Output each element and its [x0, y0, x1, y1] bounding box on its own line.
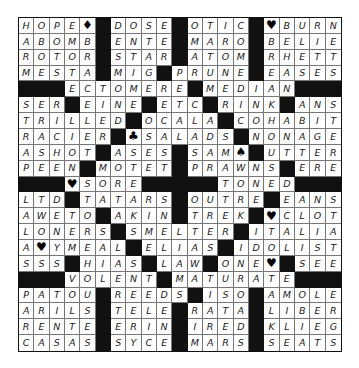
letter-cell[interactable]: E	[142, 288, 157, 304]
letter-cell[interactable]: M	[172, 272, 187, 288]
letter-cell[interactable]: A	[172, 256, 187, 272]
letter-cell[interactable]: S	[50, 66, 65, 82]
letter-cell[interactable]: A	[96, 192, 111, 208]
letter-cell[interactable]: M	[65, 34, 80, 50]
letter-cell[interactable]: T	[218, 303, 233, 319]
letter-cell[interactable]: W	[34, 208, 49, 224]
letter-cell[interactable]: T	[203, 18, 218, 34]
letter-cell[interactable]: N	[218, 66, 233, 82]
letter-cell[interactable]: T	[295, 145, 310, 161]
letter-cell[interactable]: I	[142, 208, 157, 224]
letter-cell[interactable]: A	[280, 113, 295, 129]
heart-icon[interactable]: ♥	[264, 256, 279, 272]
letter-cell[interactable]: E	[218, 208, 233, 224]
letter-cell[interactable]: O	[65, 50, 80, 66]
letter-cell[interactable]: E	[326, 161, 341, 177]
letter-cell[interactable]: E	[218, 81, 233, 97]
letter-cell[interactable]: E	[310, 303, 325, 319]
letter-cell[interactable]: U	[295, 18, 310, 34]
letter-cell[interactable]: E	[218, 319, 233, 335]
letter-cell[interactable]: C	[142, 335, 157, 351]
letter-cell[interactable]: E	[34, 319, 49, 335]
letter-cell[interactable]: R	[326, 145, 341, 161]
letter-cell[interactable]: M	[111, 66, 126, 82]
letter-cell[interactable]: O	[264, 129, 279, 145]
letter-cell[interactable]: O	[96, 177, 111, 193]
letter-cell[interactable]: S	[326, 97, 341, 113]
letter-cell[interactable]: A	[19, 34, 34, 50]
letter-cell[interactable]: O	[34, 50, 49, 66]
letter-cell[interactable]: L	[80, 113, 95, 129]
letter-cell[interactable]: A	[280, 66, 295, 82]
letter-cell[interactable]: E	[157, 335, 172, 351]
heart-icon[interactable]: ♥	[34, 240, 49, 256]
letter-cell[interactable]: N	[249, 97, 264, 113]
letter-cell[interactable]: N	[234, 256, 249, 272]
letter-cell[interactable]: H	[280, 50, 295, 66]
letter-cell[interactable]: G	[310, 129, 325, 145]
letter-cell[interactable]: A	[188, 272, 203, 288]
letter-cell[interactable]: R	[126, 319, 141, 335]
letter-cell[interactable]: E	[310, 256, 325, 272]
letter-cell[interactable]: E	[157, 18, 172, 34]
letter-cell[interactable]: E	[34, 97, 49, 113]
letter-cell[interactable]: A	[295, 129, 310, 145]
letter-cell[interactable]: I	[280, 303, 295, 319]
letter-cell[interactable]: E	[295, 50, 310, 66]
letter-cell[interactable]: S	[234, 335, 249, 351]
letter-cell[interactable]: E	[157, 97, 172, 113]
letter-cell[interactable]: B	[34, 34, 49, 50]
letter-cell[interactable]: O	[111, 161, 126, 177]
letter-cell[interactable]: R	[80, 224, 95, 240]
club-icon[interactable]: ♣	[126, 129, 141, 145]
letter-cell[interactable]: L	[172, 129, 187, 145]
letter-cell[interactable]: A	[172, 113, 187, 129]
letter-cell[interactable]: S	[126, 145, 141, 161]
letter-cell[interactable]: P	[188, 161, 203, 177]
letter-cell[interactable]: S	[157, 145, 172, 161]
letter-cell[interactable]: L	[19, 192, 34, 208]
letter-cell[interactable]: T	[310, 335, 325, 351]
letter-cell[interactable]: M	[142, 224, 157, 240]
letter-cell[interactable]: I	[96, 256, 111, 272]
letter-cell[interactable]: L	[19, 224, 34, 240]
letter-cell[interactable]: N	[280, 81, 295, 97]
letter-cell[interactable]: S	[19, 97, 34, 113]
letter-cell[interactable]: O	[80, 208, 95, 224]
letter-cell[interactable]: O	[111, 81, 126, 97]
letter-cell[interactable]: I	[203, 288, 218, 304]
letter-cell[interactable]: O	[50, 34, 65, 50]
letter-cell[interactable]: A	[157, 129, 172, 145]
letter-cell[interactable]: T	[142, 34, 157, 50]
letter-cell[interactable]: E	[142, 81, 157, 97]
letter-cell[interactable]: P	[50, 18, 65, 34]
letter-cell[interactable]: R	[264, 50, 279, 66]
letter-cell[interactable]: L	[280, 319, 295, 335]
letter-cell[interactable]: A	[264, 81, 279, 97]
letter-cell[interactable]: I	[249, 224, 264, 240]
letter-cell[interactable]: T	[280, 145, 295, 161]
letter-cell[interactable]: A	[19, 145, 34, 161]
letter-cell[interactable]: T	[50, 50, 65, 66]
letter-cell[interactable]: N	[310, 192, 325, 208]
letter-cell[interactable]: M	[19, 66, 34, 82]
letter-cell[interactable]: D	[280, 177, 295, 193]
letter-cell[interactable]: B	[80, 34, 95, 50]
letter-cell[interactable]: R	[34, 303, 49, 319]
letter-cell[interactable]: N	[157, 208, 172, 224]
letter-cell[interactable]: R	[203, 208, 218, 224]
letter-cell[interactable]: H	[80, 256, 95, 272]
letter-cell[interactable]: S	[264, 161, 279, 177]
letter-cell[interactable]: E	[126, 288, 141, 304]
letter-cell[interactable]: U	[264, 145, 279, 161]
letter-cell[interactable]: E	[65, 224, 80, 240]
letter-cell[interactable]: E	[50, 208, 65, 224]
letter-cell[interactable]: D	[111, 18, 126, 34]
letter-cell[interactable]: E	[310, 66, 325, 82]
letter-cell[interactable]: P	[19, 288, 34, 304]
letter-cell[interactable]: T	[111, 303, 126, 319]
letter-cell[interactable]: O	[188, 192, 203, 208]
letter-cell[interactable]: A	[111, 208, 126, 224]
letter-cell[interactable]: A	[234, 303, 249, 319]
letter-cell[interactable]: R	[218, 34, 233, 50]
